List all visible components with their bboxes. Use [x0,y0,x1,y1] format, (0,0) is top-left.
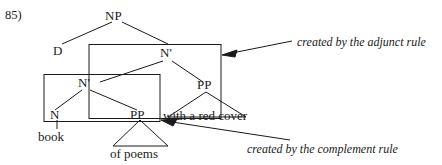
branch-n-bar-lower-to-n [55,90,82,110]
node-pp-complement: PP [130,108,144,121]
branch-np-to-d [62,22,112,44]
node-d: D [53,44,62,57]
arrow-line-complement [172,122,290,140]
leaf-of-poems: of poems [110,147,158,160]
node-np: NP [105,9,122,22]
node-n-bar-lower: N' [78,76,90,89]
node-pp-adjunct: PP [197,78,211,91]
annotation-complement-rule: created by the complement rule [247,143,398,156]
arrow-head-adjunct [222,50,237,57]
leaf-with-a-red-cover: with a red cover [163,109,247,122]
arrow-line-adjunct [232,41,292,53]
branch-np-to-n-bar-upper [122,22,168,44]
syntax-tree-figure: 85) NP D N' N' PP N PP book of poems wit… [0,0,442,165]
node-n-bar-upper: N' [160,46,172,59]
leaf-book: book [38,130,64,143]
node-n: N [50,108,59,121]
branch-n-bar-upper-to-n-bar-lower [100,61,163,82]
tree-branches-and-boxes [0,0,442,165]
annotation-adjunct-rule: created by the adjunct rule [297,36,426,49]
example-number: 85) [5,9,22,22]
triangle-pp-complement [113,120,168,146]
